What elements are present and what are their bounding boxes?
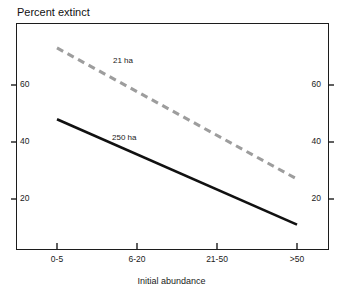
y-tick-label-right-40: 40	[303, 137, 321, 146]
y-tick-label-left-40: 40	[20, 137, 29, 146]
x-axis-ticks	[57, 243, 297, 249]
figure-container: Percent extinct 60 40 20 60 40 2	[0, 0, 343, 295]
x-tick-label-0-5: 0-5	[51, 255, 63, 264]
x-tick-label-6-20: 6-20	[128, 255, 145, 264]
x-axis-title: Initial abundance	[0, 276, 343, 287]
y-axis-right-ticks	[328, 85, 334, 199]
y-tick-label-left-20: 20	[20, 194, 29, 203]
y-tick-label-right-60: 60	[303, 80, 321, 89]
series-line-250ha	[57, 119, 297, 224]
y-tick-label-left-60: 60	[20, 80, 29, 89]
series-label-21ha: 21 ha	[113, 56, 133, 65]
y-axis-left-ticks	[11, 85, 17, 199]
x-tick-label-21-50: 21-50	[206, 255, 228, 264]
y-tick-label-right-20: 20	[303, 194, 321, 203]
x-tick-label-over-50: >50	[290, 255, 304, 264]
series-label-250ha: 250 ha	[112, 133, 136, 142]
series-line-21ha	[57, 48, 297, 179]
plot-drawing-area	[0, 0, 343, 295]
